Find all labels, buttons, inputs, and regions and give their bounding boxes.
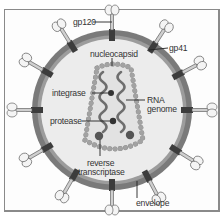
integrase-dot [108, 90, 114, 96]
label-integrase: integrase [52, 88, 86, 98]
label-genome: genome [147, 104, 177, 114]
reverse-transcriptase-dot-right [126, 131, 134, 139]
label-protease: protease [50, 116, 82, 126]
hiv-diagram: gp120 gp41 nucleocapsid integrase RNA ge… [0, 0, 223, 218]
label-gp41: gp41 [169, 43, 188, 53]
label-gp120: gp120 [73, 17, 96, 27]
label-envelope: envelope [136, 198, 170, 208]
label-nucleocapsid: nucleocapsid [90, 49, 138, 59]
label-transcriptase: transcriptase [78, 167, 125, 177]
reverse-transcriptase-dot-left [95, 132, 103, 140]
protease-dot [110, 118, 116, 124]
